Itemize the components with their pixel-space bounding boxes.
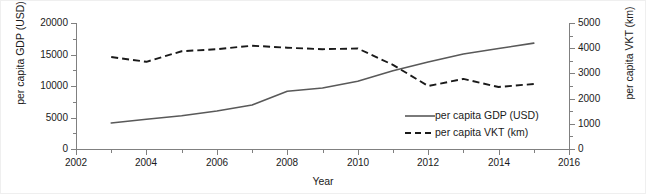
legend-label-gdp: per capita GDP (USD) — [435, 110, 539, 121]
x-minortick-5 — [463, 150, 464, 153]
legend-solid-line-icon — [405, 111, 435, 121]
y-axis-left-title: per capita GDP (USD) — [14, 0, 26, 116]
y-tick-label-right-1000: 1000 — [578, 119, 622, 129]
y-tick-label-right-2000: 2000 — [578, 94, 622, 104]
x-minortick-0 — [111, 150, 112, 153]
legend-item-vkt: per capita VKT (km) — [405, 124, 565, 141]
y-minortick-right-3 — [570, 61, 573, 62]
legend-label-vkt: per capita VKT (km) — [435, 127, 528, 138]
y-tick-label-left-0: 0 — [24, 144, 68, 154]
y-tick-label-right-4000: 4000 — [578, 43, 622, 53]
x-tick-label-2002: 2002 — [54, 158, 98, 168]
chart-legend: per capita GDP (USD) per capita VKT (km) — [405, 107, 565, 141]
x-tick-label-2004: 2004 — [124, 158, 168, 168]
x-minortick-1 — [182, 150, 183, 153]
y-minortick-right-4 — [570, 36, 573, 37]
x-minortick-6 — [534, 150, 535, 153]
y-tick-right-0 — [570, 149, 575, 150]
y-tick-right-1000 — [570, 124, 575, 125]
x-tick-label-2014: 2014 — [477, 158, 521, 168]
x-axis-title: Year — [76, 175, 570, 187]
x-tick-2014 — [499, 150, 500, 155]
x-tick-2010 — [358, 150, 359, 155]
x-tick-2016 — [569, 150, 570, 155]
x-minortick-2 — [252, 150, 253, 153]
y-tick-right-2000 — [570, 99, 575, 100]
y-minortick-right-2 — [570, 86, 573, 87]
y-tick-label-left-20000: 20000 — [24, 18, 68, 28]
series-line-per-capita-vkt — [111, 46, 534, 87]
y-tick-label-left-15000: 15000 — [24, 50, 68, 60]
legend-item-gdp: per capita GDP (USD) — [405, 107, 565, 124]
y-tick-label-left-10000: 10000 — [24, 81, 68, 91]
y-minortick-right-0 — [570, 136, 573, 137]
x-tick-label-2012: 2012 — [406, 158, 450, 168]
legend-dashed-line-icon — [405, 128, 435, 138]
y-tick-label-left-5000: 5000 — [24, 113, 68, 123]
x-tick-2008 — [287, 150, 288, 155]
x-minortick-4 — [393, 150, 394, 153]
x-tick-2012 — [428, 150, 429, 155]
x-tick-2006 — [217, 150, 218, 155]
y-tick-right-3000 — [570, 73, 575, 74]
y-axis-right-title: per capita VKT (km) — [623, 0, 635, 116]
y-minortick-right-1 — [570, 111, 573, 112]
x-tick-label-2016: 2016 — [547, 158, 591, 168]
y-tick-right-4000 — [570, 48, 575, 49]
x-tick-2004 — [146, 150, 147, 155]
y-tick-label-right-3000: 3000 — [578, 68, 622, 78]
y-tick-right-5000 — [570, 23, 575, 24]
y-tick-label-right-5000: 5000 — [578, 18, 622, 28]
x-tick-2002 — [76, 150, 77, 155]
x-minortick-3 — [323, 150, 324, 153]
x-tick-label-2008: 2008 — [265, 158, 309, 168]
x-tick-label-2006: 2006 — [195, 158, 239, 168]
y-tick-label-right-0: 0 — [578, 144, 622, 154]
chart-figure: 05000100001500020000 0100020003000400050… — [0, 0, 646, 194]
x-tick-label-2010: 2010 — [336, 158, 380, 168]
